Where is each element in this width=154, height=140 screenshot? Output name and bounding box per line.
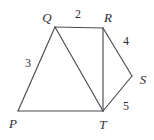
side-length-st: 5 (123, 100, 129, 112)
edge-pq (18, 27, 55, 111)
vertex-label-p: P (9, 117, 17, 130)
side-length-pq: 3 (25, 57, 31, 69)
figure-canvas (0, 0, 154, 140)
vertex-label-t: T (99, 118, 106, 131)
vertex-label-s: S (140, 73, 147, 86)
vertex-label-q: Q (42, 11, 52, 24)
edge-qt (55, 27, 103, 111)
geometry-figure: P Q R S T 2 3 4 5 (0, 0, 154, 140)
side-length-rs: 4 (123, 35, 129, 47)
side-length-qr: 2 (75, 8, 81, 20)
vertex-label-r: R (104, 11, 112, 24)
edge-qr (55, 27, 103, 28)
